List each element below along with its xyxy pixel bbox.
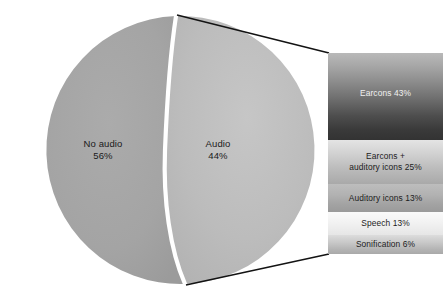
bar-segment-auditory-icons: Auditory icons 13% xyxy=(328,184,443,212)
bar-segment-auditory-icons-label: Auditory icons 13% xyxy=(346,193,426,204)
pie-chart-figure: No audio 56% Audio 44% Earcons 43% Earco… xyxy=(0,0,443,300)
bar-segment-earcons: Earcons 43% xyxy=(328,53,443,140)
bar-segment-speech-label: Speech 13% xyxy=(358,218,413,229)
bar-segment-sonification-label: Sonification 6% xyxy=(353,239,418,250)
audio-breakdown-bar: Earcons 43% Earcons + auditory icons 25%… xyxy=(328,53,443,254)
bar-segment-earcons-label: Earcons 43% xyxy=(357,88,414,99)
bar-segment-speech: Speech 13% xyxy=(328,212,443,235)
pie-slice-audio xyxy=(165,16,315,284)
bar-segment-sonification: Sonification 6% xyxy=(328,235,443,254)
bar-segment-earcons-auditory-icons: Earcons + auditory icons 25% xyxy=(328,140,443,184)
bar-segment-earcons-auditory-icons-label: Earcons + auditory icons 25% xyxy=(346,151,425,173)
